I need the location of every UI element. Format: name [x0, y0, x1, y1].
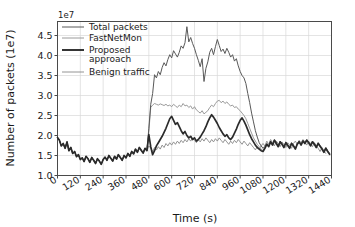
y-tick-label: 4.0 — [37, 50, 52, 61]
y-axis-offset-label: 1e7 — [58, 10, 74, 20]
y-tick-label: 3.0 — [37, 90, 52, 101]
legend-label: Total packets — [88, 22, 148, 32]
y-axis-title: Number of packets (1e7) — [4, 29, 17, 166]
x-tick-label: 960 — [220, 174, 241, 193]
y-tick-label: 1.0 — [37, 170, 52, 181]
y-tick-label: 3.5 — [37, 70, 52, 81]
legend: Total packetsFastNetMonProposedapproachB… — [62, 22, 150, 77]
y-tick-label: 4.5 — [37, 30, 52, 41]
series-line-proposed-approach — [58, 115, 330, 165]
chart-figure: 0120240360480600720840960108012001320144… — [0, 0, 355, 227]
y-tick-label: 2.5 — [37, 110, 52, 121]
x-tick-label: 1200 — [261, 174, 287, 196]
x-tick-label: 840 — [197, 174, 218, 193]
x-tick-label: 120 — [60, 174, 81, 193]
x-tick-label: 240 — [83, 174, 104, 193]
x-tick-label: 360 — [106, 174, 127, 193]
legend-label: Benign traffic — [89, 67, 150, 77]
x-tick-label: 1440 — [306, 174, 332, 196]
y-tick-label: 1.5 — [37, 150, 52, 161]
x-tick-label: 1080 — [238, 174, 264, 196]
x-axis-title: Time (s) — [172, 212, 218, 225]
line-chart-svg: 0120240360480600720840960108012001320144… — [0, 0, 355, 227]
x-tick-label: 600 — [152, 174, 173, 193]
legend-label: approach — [89, 54, 131, 64]
x-tick-label: 720 — [174, 174, 195, 193]
y-tick-label: 2.0 — [37, 130, 52, 141]
xtick-labels: 0120240360480600720840960108012001320144… — [48, 174, 333, 196]
x-tick-label: 1320 — [283, 174, 309, 196]
series-line-fastnetmon — [58, 100, 330, 164]
legend-label: FastNetMon — [89, 33, 142, 43]
x-tick-label: 480 — [129, 174, 150, 193]
ytick-labels: 1.01.52.02.53.03.54.04.5 — [37, 30, 52, 181]
